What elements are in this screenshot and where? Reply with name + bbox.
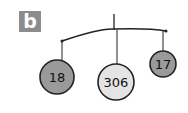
mobile-diagram: 18 306 17 — [0, 0, 188, 113]
pendant-value: 18 — [49, 70, 66, 85]
pendant-left: 18 — [40, 60, 74, 94]
mobile-arm — [62, 29, 166, 41]
pendant-right: 17 — [150, 51, 176, 77]
pendant-value: 306 — [104, 75, 129, 90]
arm-end-right — [165, 30, 168, 33]
pendant-value: 17 — [155, 57, 172, 72]
pendant-middle: 306 — [98, 64, 134, 100]
